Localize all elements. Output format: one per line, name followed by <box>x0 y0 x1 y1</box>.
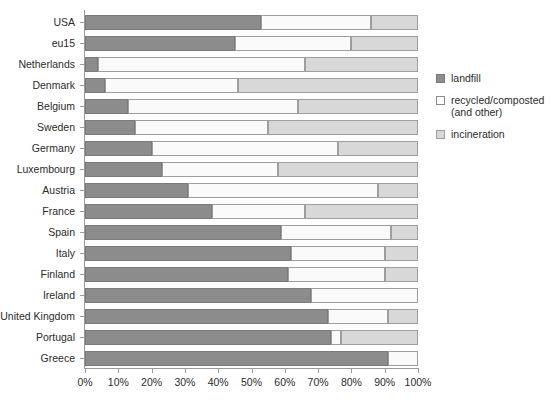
bar-segment-recycled <box>331 330 341 345</box>
bar-row: France <box>85 204 418 219</box>
x-axis-tick-label: 70% <box>308 376 329 388</box>
x-axis-tick-label: 30% <box>174 376 195 388</box>
bar-segment-landfill <box>85 99 128 114</box>
x-axis-tick <box>285 368 286 373</box>
y-axis-category-label: Ireland <box>43 288 75 303</box>
legend-label: incineration <box>451 128 505 140</box>
y-axis-category-label: Portugal <box>36 330 75 345</box>
bar-segment-recycled <box>311 288 418 303</box>
bar-row: Belgium <box>85 99 418 114</box>
x-axis-tick <box>118 368 119 373</box>
y-axis-category-label: USA <box>53 15 75 30</box>
y-axis-category-label: Italy <box>56 246 75 261</box>
y-axis-tick <box>80 295 85 296</box>
bar-segment-landfill <box>85 57 98 72</box>
legend-swatch-incineration-icon <box>436 130 445 139</box>
legend-item: incineration <box>436 128 556 140</box>
bar-row: Germany <box>85 141 418 156</box>
bar-row: Denmark <box>85 78 418 93</box>
y-axis-category-label: Netherlands <box>18 57 75 72</box>
bar-segment-landfill <box>85 225 281 240</box>
bar-row: Italy <box>85 246 418 261</box>
waste-treatment-stacked-bar-chart: USAeu15NetherlandsDenmarkBelgiumSwedenGe… <box>0 0 556 412</box>
bar-row: Spain <box>85 225 418 240</box>
bar-segment-incineration <box>385 246 418 261</box>
y-axis-tick <box>80 358 85 359</box>
x-axis-tick-label: 100% <box>405 376 432 388</box>
y-axis-tick <box>80 148 85 149</box>
bar-segment-incineration <box>378 183 418 198</box>
bar-segment-incineration <box>305 57 418 72</box>
bar-segment-landfill <box>85 183 188 198</box>
bar-segment-incineration <box>391 225 418 240</box>
y-axis-tick <box>80 127 85 128</box>
x-axis-tick <box>418 368 419 373</box>
legend-label: landfill <box>451 72 481 84</box>
y-axis-tick <box>80 106 85 107</box>
x-axis-tick <box>351 368 352 373</box>
y-axis-category-label: Finland <box>41 267 75 282</box>
bar-segment-recycled <box>291 246 384 261</box>
bar-segment-landfill <box>85 246 291 261</box>
bar-segment-landfill <box>85 141 152 156</box>
x-axis-tick-label: 0% <box>77 376 92 388</box>
y-axis-category-label: Belgium <box>37 99 75 114</box>
legend-swatch-recycled-icon <box>436 96 445 105</box>
bar-segment-landfill <box>85 162 162 177</box>
bar-segment-recycled <box>98 57 304 72</box>
bar-segment-landfill <box>85 267 288 282</box>
bar-segment-recycled <box>212 204 305 219</box>
bar-segment-recycled <box>235 36 352 51</box>
bar-row: eu15 <box>85 36 418 51</box>
bar-row: Luxembourg <box>85 162 418 177</box>
bar-row: USA <box>85 15 418 30</box>
y-axis-tick <box>80 169 85 170</box>
bar-segment-landfill <box>85 120 135 135</box>
y-axis-tick <box>80 64 85 65</box>
bar-row: Austria <box>85 183 418 198</box>
bar-segment-landfill <box>85 288 311 303</box>
y-axis-category-label: France <box>42 204 75 219</box>
x-axis-tick-label: 10% <box>108 376 129 388</box>
y-axis-category-label: Luxembourg <box>17 162 75 177</box>
legend-item: recycled/composted (and other) <box>436 94 556 118</box>
y-axis-category-label: United Kingdom <box>0 309 75 324</box>
x-axis-tick <box>185 368 186 373</box>
x-axis-tick <box>152 368 153 373</box>
legend-swatch-landfill-icon <box>436 74 445 83</box>
x-axis-tick-label: 20% <box>141 376 162 388</box>
bar-row: Sweden <box>85 120 418 135</box>
y-axis-tick <box>80 190 85 191</box>
y-axis-tick <box>80 253 85 254</box>
x-axis-tick-label: 60% <box>274 376 295 388</box>
bar-segment-incineration <box>305 204 418 219</box>
y-axis-tick <box>80 22 85 23</box>
bar-segment-incineration <box>341 330 418 345</box>
y-axis-category-label: Denmark <box>32 78 75 93</box>
x-axis-tick <box>385 368 386 373</box>
bar-segment-incineration <box>351 36 418 51</box>
x-axis-tick <box>318 368 319 373</box>
bar-row: Greece <box>85 351 418 366</box>
bar-segment-recycled <box>162 162 279 177</box>
x-axis-tick-label: 90% <box>374 376 395 388</box>
bar-segment-recycled <box>388 351 418 366</box>
bar-segment-incineration <box>268 120 418 135</box>
bar-segment-landfill <box>85 15 261 30</box>
bar-row: Portugal <box>85 330 418 345</box>
bar-row: Finland <box>85 267 418 282</box>
y-axis-tick <box>80 85 85 86</box>
bar-segment-recycled <box>188 183 378 198</box>
bar-segment-landfill <box>85 36 235 51</box>
chart-legend: landfillrecycled/composted (and other)in… <box>436 72 556 150</box>
y-axis-category-label: Sweden <box>37 120 75 135</box>
bar-segment-incineration <box>371 15 418 30</box>
bar-row: Netherlands <box>85 57 418 72</box>
bar-segment-recycled <box>261 15 371 30</box>
bar-segment-landfill <box>85 330 331 345</box>
plot-area: USAeu15NetherlandsDenmarkBelgiumSwedenGe… <box>85 10 418 368</box>
y-axis-tick <box>80 274 85 275</box>
bar-segment-recycled <box>135 120 268 135</box>
bar-segment-recycled <box>105 78 238 93</box>
bar-segment-recycled <box>288 267 385 282</box>
